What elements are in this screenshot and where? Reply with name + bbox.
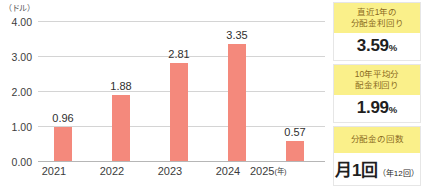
metric-recent-yield-unit: % [389, 42, 397, 53]
metric-card-recent-yield-value: 3.59% [334, 33, 420, 60]
y-tick-label-3: 3.00 [0, 52, 32, 63]
metric-card-distribution-frequency-value: 月1回（年12回） [334, 153, 420, 185]
bar-2025[interactable] [286, 141, 304, 161]
x-tick-label-2023: 2023 [141, 166, 199, 177]
chart-screenshot: （ドル） 4.00 3.00 2.00 1.00 0.00 0.96 1.88 … [0, 0, 424, 193]
metric-card-recent-yield-heading: 直近1年の 分配金利回り [334, 3, 420, 33]
y-tick-label-1: 1.00 [0, 122, 32, 133]
x-axis-unit-label: (年) [274, 167, 286, 176]
metric-card-10y-avg-yield-value: 1.99% [334, 95, 420, 122]
x-axis-line [38, 161, 325, 162]
bar-value-2023: 2.81 [156, 49, 202, 60]
bar-value-2024: 3.35 [214, 30, 260, 41]
x-tick-label-2025-year: 2025 [250, 165, 274, 177]
metric-recent-yield-number: 3.59 [357, 36, 389, 55]
x-tick-label-2022: 2022 [83, 166, 141, 177]
bar-2023[interactable] [170, 63, 188, 161]
bar-2021[interactable] [54, 127, 72, 161]
metric-card-10y-avg-yield-heading: 10年平均分 配金利回り [334, 65, 420, 95]
bar-value-2022: 1.88 [98, 81, 144, 92]
bar-value-2025: 0.57 [272, 127, 318, 138]
metric-10y-avg-yield-unit: % [389, 104, 397, 115]
metric-distribution-frequency-number: 月1回 [335, 161, 378, 180]
bar-2022[interactable] [112, 95, 130, 161]
metric-distribution-frequency-annual: （年12回） [378, 169, 419, 178]
x-tick-label-2025: 2025(年) [250, 166, 324, 177]
x-tick-label-2024: 2024 [199, 166, 257, 177]
gridline-4 [38, 21, 325, 22]
x-tick-label-2021: 2021 [25, 166, 83, 177]
y-axis-unit-label: （ドル） [4, 2, 35, 13]
bar-2024[interactable] [228, 44, 246, 161]
metric-10y-avg-yield-number: 1.99 [357, 98, 389, 117]
y-tick-label-2: 2.00 [0, 87, 32, 98]
y-tick-label-4: 4.00 [0, 17, 32, 28]
bar-value-2021: 0.96 [40, 113, 86, 124]
bar-chart: （ドル） 4.00 3.00 2.00 1.00 0.00 0.96 1.88 … [0, 0, 328, 193]
metrics-panel: 直近1年の 分配金利回り 3.59% 10年平均分 配金利回り 1.99% 分配… [333, 2, 421, 191]
metric-card-10y-avg-yield: 10年平均分 配金利回り 1.99% [333, 64, 421, 123]
metric-card-distribution-frequency-heading: 分配金の回数 [334, 127, 420, 153]
metric-card-recent-yield: 直近1年の 分配金利回り 3.59% [333, 2, 421, 61]
plot-area: 0.96 1.88 2.81 3.35 0.57 [38, 21, 325, 161]
metric-card-distribution-frequency: 分配金の回数 月1回（年12回） [333, 126, 421, 186]
